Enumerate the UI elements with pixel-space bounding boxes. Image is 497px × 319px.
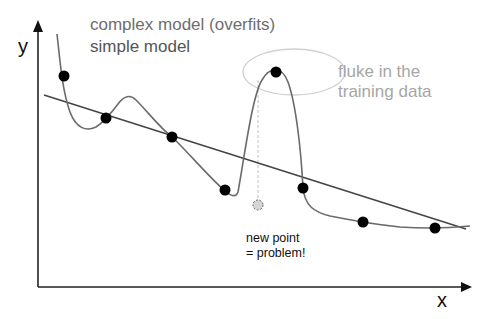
new-point-annotation-line1: new point	[246, 231, 336, 246]
data-point	[430, 223, 441, 234]
y-axis-label: y	[18, 36, 28, 56]
y-axis-arrow-icon	[33, 20, 43, 32]
fluke-annotation-line1: fluke in the	[338, 62, 488, 82]
diagram-canvas	[0, 0, 497, 319]
outlier-data-point	[271, 67, 282, 78]
new-point-annotation-line2: = problem!	[246, 246, 336, 261]
data-point	[167, 132, 178, 143]
overfitting-diagram: y x complex model (overfits) simple mode…	[0, 0, 497, 319]
x-axis-arrow-icon	[461, 282, 472, 292]
data-point	[59, 71, 70, 82]
legend-complex-model: complex model (overfits)	[90, 16, 275, 33]
data-point	[298, 183, 309, 194]
new-point-annotation: new point = problem!	[246, 231, 336, 261]
new-point	[253, 200, 263, 210]
data-point	[101, 113, 112, 124]
legend-simple-model: simple model	[90, 38, 190, 55]
fluke-annotation-line2: training data	[338, 82, 488, 102]
data-point	[220, 185, 231, 196]
x-axis-label: x	[437, 290, 447, 310]
data-point	[358, 217, 369, 228]
fluke-annotation: fluke in the training data	[338, 62, 488, 102]
